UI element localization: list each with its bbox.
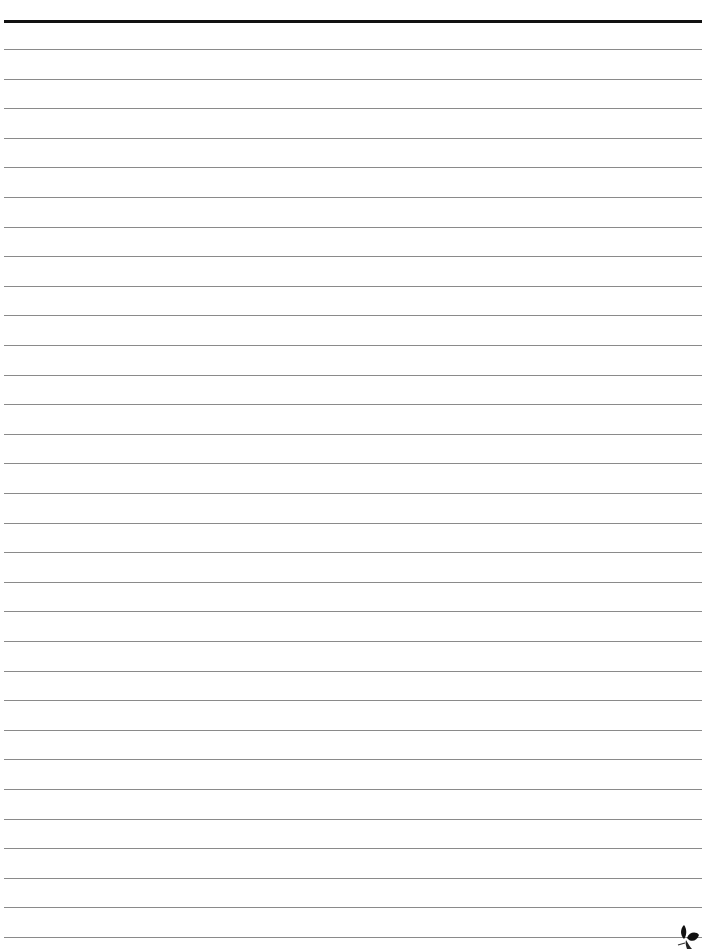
ruled-line	[4, 878, 702, 879]
ruled-line	[4, 167, 702, 168]
ruled-line	[4, 552, 702, 553]
ruled-line	[4, 375, 702, 376]
ruled-line	[4, 108, 702, 109]
ruled-line	[4, 286, 702, 287]
ruled-line	[4, 138, 702, 139]
ruled-line	[4, 404, 702, 405]
ruled-lines	[0, 0, 703, 949]
ruled-line	[4, 730, 702, 731]
ruled-line	[4, 671, 702, 672]
ruled-line	[4, 937, 702, 938]
ruled-line	[4, 493, 702, 494]
lined-paper-page	[0, 0, 703, 949]
ruled-line	[4, 434, 702, 435]
ruled-line	[4, 463, 702, 464]
ruled-line	[4, 907, 702, 908]
ruled-line	[4, 582, 702, 583]
ruled-line	[4, 256, 702, 257]
leaf-ornament-icon	[675, 923, 701, 949]
ruled-line	[4, 49, 702, 50]
ruled-line	[4, 641, 702, 642]
ruled-line	[4, 227, 702, 228]
ruled-line	[4, 523, 702, 524]
ruled-line	[4, 848, 702, 849]
ruled-line	[4, 197, 702, 198]
ruled-line	[4, 611, 702, 612]
ruled-line	[4, 759, 702, 760]
ruled-line	[4, 700, 702, 701]
ruled-line	[4, 315, 702, 316]
ruled-line	[4, 789, 702, 790]
ruled-line	[4, 345, 702, 346]
ruled-line	[4, 819, 702, 820]
ruled-line	[4, 79, 702, 80]
